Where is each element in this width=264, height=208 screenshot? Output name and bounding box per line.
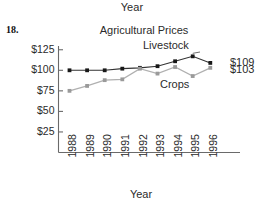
- data-point-livestock: [191, 54, 195, 58]
- line-chart: $25$50$75$100$125 1988198919901991199219…: [0, 0, 264, 208]
- x-axis-ticks: 198819891990199119921993199419951996: [66, 134, 219, 158]
- data-point-livestock: [120, 67, 124, 71]
- data-point-livestock: [173, 59, 177, 63]
- y-tick-label: $75: [37, 84, 55, 96]
- data-point-crops: [103, 78, 107, 82]
- x-tick-label: 1993: [154, 134, 166, 158]
- x-tick-label: 1988: [66, 134, 78, 158]
- series-label-crops: Crops: [160, 78, 190, 90]
- x-tick-label: 1989: [84, 134, 96, 158]
- x-tick-label: 1992: [137, 134, 149, 158]
- data-point-crops: [120, 77, 124, 81]
- x-tick-label: 1991: [119, 134, 131, 158]
- data-point-crops: [156, 72, 160, 76]
- data-point-crops: [173, 65, 177, 69]
- y-tick-label: $125: [31, 43, 55, 55]
- figure-container: Year 18. Agricultural Prices $25$50$75$1…: [0, 0, 264, 208]
- y-tick-label: $100: [31, 63, 55, 75]
- x-axis-title: Year: [46, 188, 236, 200]
- x-tick-label: 1994: [172, 134, 184, 158]
- x-tick-label: 1995: [189, 134, 201, 158]
- series-label-livestock: Livestock: [143, 39, 189, 51]
- chart-annotations: LivestockCrops$109$103: [143, 39, 254, 90]
- data-point-crops: [191, 74, 195, 78]
- data-point-livestock: [208, 61, 212, 65]
- chart-series: [68, 54, 213, 92]
- data-point-livestock: [103, 68, 107, 72]
- data-point-crops: [138, 67, 142, 71]
- y-tick-label: $25: [37, 125, 55, 137]
- end-value-crops: $103: [230, 63, 254, 75]
- x-tick-label: 1990: [101, 134, 113, 158]
- y-tick-label: $50: [37, 104, 55, 116]
- leader-line-livestock: [193, 52, 200, 53]
- data-point-crops: [68, 89, 72, 93]
- data-point-livestock: [156, 64, 160, 68]
- data-point-crops: [208, 66, 212, 70]
- data-point-livestock: [85, 68, 89, 72]
- data-point-livestock: [68, 68, 72, 72]
- data-point-crops: [85, 84, 89, 88]
- x-tick-label: 1996: [207, 134, 219, 158]
